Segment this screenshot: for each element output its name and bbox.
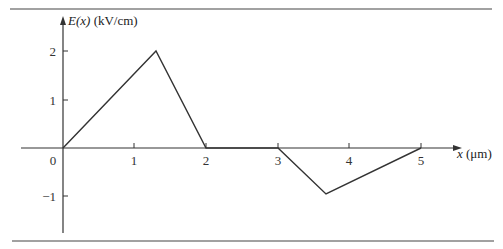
x-axis-label-unit: (μm) bbox=[463, 146, 492, 161]
y-tick-label: 1 bbox=[50, 93, 57, 108]
y-axis-label: E(x) (kV/cm) bbox=[67, 13, 138, 28]
y-ticks bbox=[63, 51, 68, 196]
y-tick-label: −1 bbox=[42, 189, 56, 204]
x-tick-label: 5 bbox=[418, 153, 425, 168]
x-tick-label: 0 bbox=[50, 153, 57, 168]
x-tick-label: 4 bbox=[346, 153, 353, 168]
x-tick-label: 1 bbox=[131, 153, 138, 168]
y-axis-arrow-icon bbox=[60, 16, 66, 25]
y-axis-label-var: E(x) bbox=[67, 13, 90, 28]
y-axis-label-unit: (kV/cm) bbox=[90, 13, 137, 28]
series-line bbox=[63, 51, 421, 194]
x-tick-label: 3 bbox=[275, 153, 282, 168]
x-ticks bbox=[134, 143, 421, 148]
y-tick-label: 2 bbox=[50, 44, 57, 59]
chart: 0 1 2 3 4 5 2 1 −1 E(x) (kV/cm) x (μm) bbox=[0, 0, 503, 249]
x-axis-label: x (μm) bbox=[456, 146, 492, 161]
x-tick-label: 2 bbox=[203, 153, 210, 168]
